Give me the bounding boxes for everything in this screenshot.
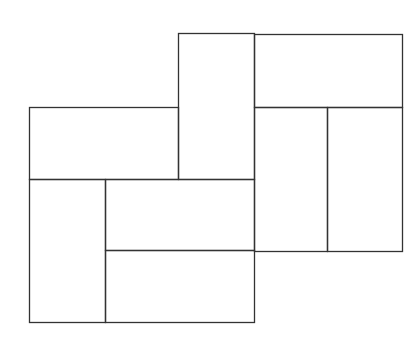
rect-middle	[106, 180, 255, 251]
rect-center-tall	[179, 34, 255, 180]
rect-left-top	[30, 108, 179, 180]
rect-bottom-left-tall	[30, 180, 106, 323]
rect-bottom	[106, 251, 255, 323]
rect-top-right	[255, 35, 403, 108]
tiling-diagram	[0, 0, 417, 339]
rect-right-tall-a	[255, 108, 328, 252]
rect-right-tall-b	[328, 108, 403, 252]
